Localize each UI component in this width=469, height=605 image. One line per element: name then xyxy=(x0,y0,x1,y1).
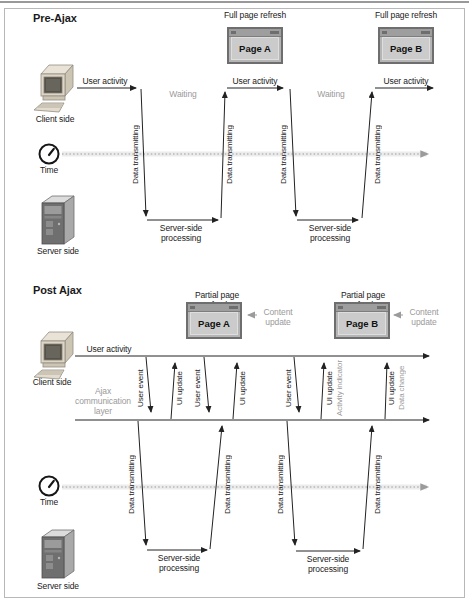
waiting-label: Waiting xyxy=(158,89,208,99)
server-tower-icon xyxy=(42,196,74,244)
time-label: Time xyxy=(34,165,64,175)
user-event-arrow xyxy=(204,357,209,412)
user-event-arrow xyxy=(294,357,299,412)
page-title: Page A xyxy=(190,312,238,335)
window-titlebar xyxy=(380,29,432,37)
user-activity-label: User activity xyxy=(220,76,290,86)
section-title-pre: Pre-Ajax xyxy=(33,12,77,25)
event-sublabel: Activity indicator xyxy=(334,358,345,418)
client-side-label: Client side xyxy=(25,114,85,124)
data-transmit-down-arrow xyxy=(287,421,295,545)
data-transmitting-label: Data transmitting xyxy=(222,449,233,521)
content-update-label: Content update xyxy=(403,307,445,327)
waiting-label: Waiting xyxy=(306,89,356,99)
server-tower-icon xyxy=(42,530,74,578)
data-transmitting-label: Data transmitting xyxy=(372,449,383,521)
time-label: Time xyxy=(34,497,64,507)
window-caption: Full page refresh xyxy=(219,10,291,20)
browser-window-icon: Page B xyxy=(378,27,434,64)
server-processing-label: Server-side processing xyxy=(299,223,361,243)
browser-window-icon: Page B xyxy=(334,302,390,339)
window-titlebar xyxy=(188,304,240,312)
data-transmitting-label: Data transmitting xyxy=(130,119,141,191)
clock-icon xyxy=(40,145,59,164)
event-label: User event xyxy=(192,358,203,418)
page-title: Page B xyxy=(382,37,430,60)
event-label: UI update xyxy=(174,358,185,418)
page-title: Page A xyxy=(231,37,279,60)
data-transmit-down-arrow xyxy=(138,421,146,545)
server-processing-label: Server-side processing xyxy=(148,553,210,573)
data-transmitting-label: Data transmitting xyxy=(372,119,383,191)
client-computer-icon xyxy=(34,65,73,112)
event-label: User event xyxy=(283,358,294,418)
window-titlebar xyxy=(229,29,281,37)
data-transmitting-label: Data transmitting xyxy=(275,449,286,521)
event-sublabel: Data change xyxy=(396,358,407,418)
clock-icon xyxy=(40,477,59,496)
data-transmitting-label: Data transmitting xyxy=(278,119,289,191)
page-title: Page B xyxy=(338,312,386,335)
server-side-label: Server side xyxy=(26,246,90,256)
data-transmitting-label: Data transmitting xyxy=(224,119,235,191)
client-side-label: Client side xyxy=(22,377,82,387)
server-side-label: Server side xyxy=(26,581,90,591)
content-update-label: Content update xyxy=(257,307,299,327)
server-processing-label: Server-side processing xyxy=(297,554,359,574)
ajax-comparison-diagram: Pre-Ajax Full page refresh Full page ref… xyxy=(0,0,469,605)
browser-window-icon: Page A xyxy=(186,302,242,339)
user-activity-label: User activity xyxy=(371,76,441,86)
user-activity-label: User activity xyxy=(78,344,140,354)
section-title-post: Post Ajax xyxy=(33,284,82,297)
client-computer-icon xyxy=(34,332,73,379)
window-titlebar xyxy=(336,304,388,312)
event-label: UI update xyxy=(237,358,248,418)
user-event-arrow xyxy=(146,357,151,412)
data-transmitting-label: Data transmitting xyxy=(126,449,137,521)
window-caption: Full page refresh xyxy=(370,10,442,20)
browser-window-icon: Page A xyxy=(227,27,283,64)
user-activity-label: User activity xyxy=(70,76,140,86)
server-processing-label: Server-side processing xyxy=(150,223,212,243)
ajax-layer-label: Ajax communication layer xyxy=(74,386,132,416)
event-label: User event xyxy=(135,358,146,418)
